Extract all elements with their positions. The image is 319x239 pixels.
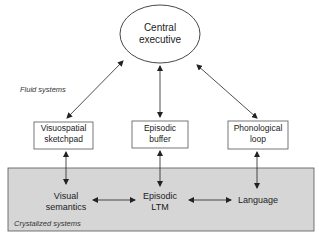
central-executive-line1: Central <box>120 22 200 34</box>
visual-semantics-line2: semantics <box>36 202 96 213</box>
visuospatial-sketchpad-label: Visuospatial sketchpad <box>34 123 93 145</box>
episodic-ltm-line1: Episodic <box>132 191 188 202</box>
arrow-ce-phonological <box>197 65 257 118</box>
visual-semantics-label: Visual semantics <box>36 191 96 213</box>
episodic-buffer-line2: buffer <box>132 134 188 145</box>
episodic-buffer-label: Episodic buffer <box>132 123 188 145</box>
central-executive-label: Central executive <box>120 22 200 46</box>
episodic-ltm-label: Episodic LTM <box>132 191 188 213</box>
crystallized-systems-label: Crystalized systems <box>14 218 104 230</box>
episodic-buffer-line1: Episodic <box>132 123 188 134</box>
visuospatial-line1: Visuospatial <box>34 123 93 134</box>
central-executive-line2: executive <box>120 34 200 46</box>
phonological-line1: Phonological <box>226 123 290 134</box>
language-label: Language <box>232 195 284 206</box>
phonological-loop-label: Phonological loop <box>226 123 290 145</box>
visual-semantics-line1: Visual <box>36 191 96 202</box>
episodic-ltm-line2: LTM <box>132 202 188 213</box>
visuospatial-line2: sketchpad <box>34 134 93 145</box>
phonological-line2: loop <box>226 134 290 145</box>
fluid-systems-label: Fluid systems <box>20 84 90 96</box>
language-line1: Language <box>232 195 284 206</box>
